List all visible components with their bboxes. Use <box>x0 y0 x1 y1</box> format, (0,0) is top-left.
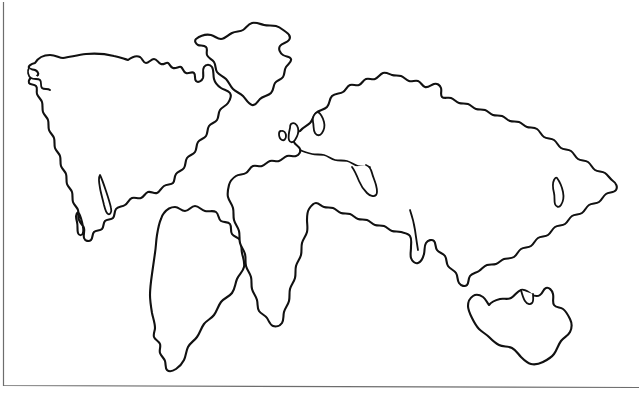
landmass-ireland <box>279 131 286 140</box>
world-map-figure <box>0 0 639 402</box>
world-map-svg <box>0 0 639 402</box>
